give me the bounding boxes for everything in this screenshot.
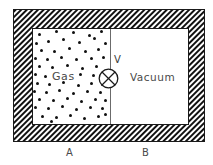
gas-chamber-label: Gas — [52, 70, 75, 83]
valve-icon[interactable] — [98, 68, 119, 89]
valve-label: V — [114, 54, 121, 65]
chamber-a-side-label: A — [66, 147, 73, 158]
diagram-canvas: V Gas Vacuum A B — [0, 0, 213, 165]
vacuum-chamber-label: Vacuum — [130, 71, 175, 83]
chamber-b-side-label: B — [142, 147, 149, 158]
